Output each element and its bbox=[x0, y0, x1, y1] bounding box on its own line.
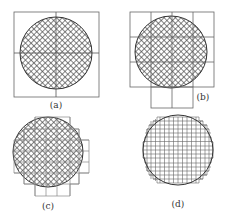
panel-b: (b) bbox=[130, 12, 214, 108]
panel-d: (d) bbox=[143, 115, 213, 209]
panel-c: (c) bbox=[13, 117, 89, 211]
circle-shape bbox=[13, 117, 83, 187]
circle-shape bbox=[135, 16, 207, 88]
panel-label-b: (b) bbox=[197, 92, 210, 102]
quantization-diagram: (a) (b) bbox=[0, 0, 225, 219]
panel-label-c: (c) bbox=[42, 201, 54, 211]
panel-a: (a) bbox=[14, 12, 99, 110]
panel-label-d: (d) bbox=[172, 199, 185, 209]
fine-grid bbox=[143, 117, 213, 183]
panel-label-a: (a) bbox=[50, 100, 62, 110]
